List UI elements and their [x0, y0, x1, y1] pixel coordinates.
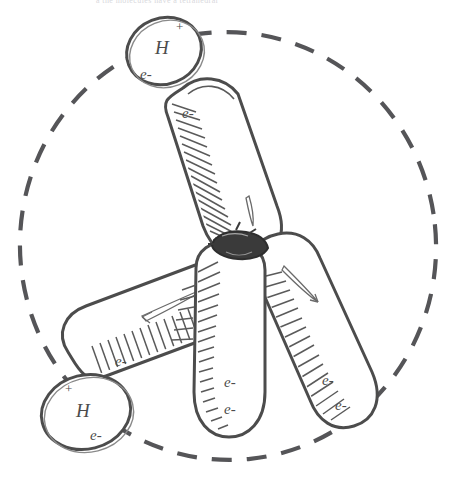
electron-label-center-lobe-2: e- — [224, 401, 236, 417]
lobe-lower-right — [251, 233, 377, 428]
electron-label-upper-lobe: e- — [182, 105, 194, 121]
orbital-diagram-svg: + H e- + H e- e- e- e- e- e- e- — [0, 0, 458, 480]
figure-canvas: a the molecules have a tetrahedral — [0, 0, 458, 480]
hydrogen-top-charge: + — [176, 19, 183, 34]
hydrogen-top-symbol: H — [154, 37, 170, 58]
hydrogen-bottom-left: + H e- — [33, 365, 141, 462]
hydrogen-bottom-left-charge: + — [65, 381, 72, 396]
hydrogen-bottom-left-symbol: H — [75, 400, 91, 421]
electron-label-center-lobe-1: e- — [224, 374, 236, 390]
electron-label-right-lobe-1: e- — [322, 372, 334, 388]
hydrogen-bottom-left-electron: e- — [90, 427, 102, 443]
hydrogen-top-electron: e- — [140, 66, 152, 82]
electron-label-right-lobe-2: e- — [335, 397, 347, 413]
electron-label-lower-left-lobe: e- — [115, 353, 127, 369]
